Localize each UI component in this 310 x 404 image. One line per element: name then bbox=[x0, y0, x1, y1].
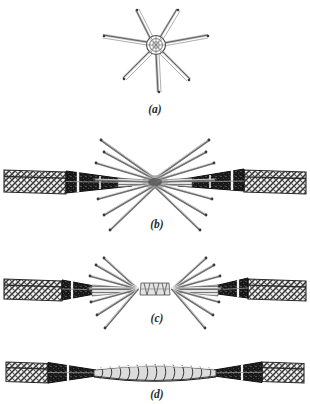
panel-a-hub bbox=[147, 36, 166, 55]
braided-sheath-icon bbox=[248, 279, 306, 301]
braided-sheath-icon bbox=[4, 279, 62, 301]
page-background bbox=[0, 0, 310, 404]
caption-a: (a) bbox=[148, 103, 162, 116]
braided-sheath-icon bbox=[6, 362, 48, 383]
figure-plate: (a) bbox=[0, 0, 310, 404]
figure-canvas: (a) bbox=[0, 0, 310, 404]
braided-sheath-icon bbox=[244, 170, 306, 194]
caption-b: (b) bbox=[150, 218, 164, 231]
braided-sheath-icon bbox=[262, 362, 304, 383]
panel-c-meshed-joint bbox=[140, 283, 170, 295]
braided-sheath-icon bbox=[4, 170, 66, 194]
caption-d: (d) bbox=[150, 388, 164, 401]
caption-c: (c) bbox=[151, 312, 164, 325]
